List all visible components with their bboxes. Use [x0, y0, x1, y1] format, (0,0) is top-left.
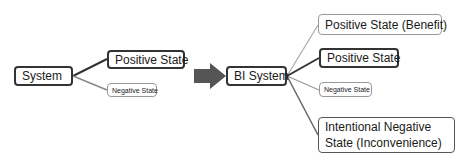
positive-state-benefit-node: Positive State (Benefit)	[318, 14, 442, 35]
intentional-negative-state-node: Intentional Negative State (Inconvenienc…	[318, 117, 455, 153]
negative-state-node: Negative State	[107, 83, 157, 97]
positive-state-node-right: Positive State	[319, 48, 399, 68]
negative-state-node-right: Negative State	[319, 82, 372, 97]
system-node: System	[14, 66, 73, 86]
bi-system-node: BI System	[226, 66, 287, 86]
positive-state-node: Positive State	[107, 50, 185, 69]
arrow-right-icon	[194, 63, 226, 89]
